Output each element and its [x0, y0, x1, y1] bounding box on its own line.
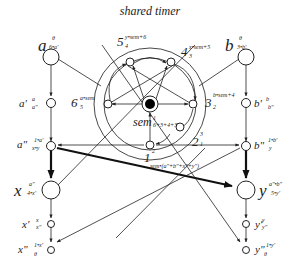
svg-text:4: 4 — [181, 44, 188, 59]
label-t5: 5 y•sem+6 4 — [117, 34, 146, 49]
svg-text:a: a — [32, 96, 35, 102]
svg-text:θ: θ — [239, 35, 242, 41]
svg-text:1•b': 1•b' — [268, 137, 278, 143]
svg-text:4: 4 — [125, 43, 128, 49]
label-a-dprime: a" 1•a' x•y — [17, 137, 44, 151]
svg-text:5•y': 5•y' — [271, 190, 281, 196]
node-t5[interactable] — [126, 58, 134, 66]
diagram-title: shared timer — [120, 4, 181, 18]
svg-text:2: 2 — [192, 134, 199, 149]
edge-diagonal-lower — [116, 148, 205, 238]
edge-a-timer — [58, 59, 101, 86]
svg-text:a': a' — [19, 97, 28, 109]
node-y[interactable] — [237, 181, 255, 199]
svg-text:y: y — [257, 181, 267, 200]
node-a-prime[interactable] — [47, 99, 56, 108]
svg-text:1•y': 1•y' — [266, 242, 276, 248]
node-y-prime[interactable] — [243, 221, 250, 228]
svg-text:sem•(a"+b"+x"+y"): sem•(a"+b"+x"+y") — [150, 163, 199, 170]
node-b-prime[interactable] — [242, 99, 251, 108]
edge-diagonal-y2 — [102, 45, 240, 242]
label-x: x a" 4•x' — [13, 181, 37, 200]
node-x[interactable] — [42, 181, 60, 199]
node-a-dprime[interactable] — [47, 142, 56, 151]
node-b-dprime[interactable] — [242, 142, 251, 151]
label-y: y a"•b" 5•y' — [257, 181, 283, 200]
svg-text:x': x' — [21, 218, 30, 230]
label-x-prime: x' x x" — [21, 217, 42, 230]
label-b-dprime: b" 1•b' y — [254, 137, 278, 151]
node-x-prime[interactable] — [48, 221, 55, 228]
svg-text:b•sem+4: b•sem+4 — [213, 92, 234, 98]
edge-sem-t5 — [133, 66, 144, 99]
svg-text:b": b" — [254, 139, 265, 151]
svg-text:6: 6 — [71, 95, 78, 110]
label-t3: 3 b•sem+4 2 — [204, 92, 234, 110]
arc-t4-t3 — [174, 64, 195, 100]
svg-text:6+3+4+3: 6+3+4+3 — [153, 122, 177, 128]
svg-text:2: 2 — [213, 104, 216, 110]
label-x-dprime: x" 1•x' θ — [17, 242, 44, 257]
svg-text:a": a" — [29, 181, 35, 187]
node-t4[interactable] — [167, 58, 175, 66]
svg-text:2: 2 — [152, 148, 155, 154]
svg-text:y": y" — [261, 224, 268, 230]
node-t3[interactable] — [189, 100, 197, 108]
label-t1: 1 2 sem•(a"+b"+x"+y") — [144, 148, 199, 170]
edge-b-timer — [199, 59, 239, 86]
svg-text:1•a': 1•a' — [34, 137, 44, 143]
node-x-dprime[interactable] — [48, 247, 55, 254]
edge-t4-cross — [110, 66, 172, 103]
edge-t5-cross — [128, 66, 190, 103]
svg-text:x: x — [35, 217, 39, 223]
svg-text:x": x" — [35, 224, 42, 230]
svg-text:θ: θ — [52, 35, 55, 41]
svg-text:1: 1 — [200, 141, 203, 147]
svg-text:b: b — [225, 36, 234, 55]
svg-text:a•sem: a•sem — [80, 95, 95, 101]
node-t2[interactable] — [176, 123, 184, 131]
edge-sem-t4 — [156, 66, 167, 99]
svg-text:θ: θ — [264, 251, 267, 257]
label-a-prime: a' a a" — [19, 96, 38, 110]
label-y-dprime: y" 1•y' θ — [254, 242, 276, 257]
svg-text:θ: θ — [34, 251, 37, 257]
svg-text:a: a — [38, 36, 47, 55]
svg-text:y•sem+6: y•sem+6 — [124, 34, 146, 40]
label-t6: 6 a•sem 5 — [71, 95, 95, 110]
svg-text:3: 3 — [199, 131, 203, 137]
svg-text:3•b': 3•b' — [236, 44, 247, 50]
node-y-dprime[interactable] — [243, 247, 250, 254]
node-b[interactable] — [238, 49, 254, 65]
svg-text:3: 3 — [204, 95, 212, 110]
sem-token — [145, 99, 155, 109]
svg-text:6•a': 6•a' — [49, 44, 59, 50]
svg-text:y: y — [261, 217, 265, 223]
svg-text:a"•b": a"•b" — [269, 181, 283, 187]
svg-text:x": x" — [17, 243, 28, 255]
svg-text:4•x': 4•x' — [27, 190, 37, 196]
svg-text:b": b" — [268, 104, 274, 110]
svg-text:5: 5 — [117, 34, 124, 49]
svg-text:a": a" — [32, 104, 38, 110]
label-b-prime: b' b b" — [254, 96, 274, 110]
svg-text:x•y: x•y — [31, 145, 40, 151]
svg-text:y: y — [268, 145, 272, 151]
label-t4: 4 x•sem+5 3 — [181, 44, 210, 59]
label-y-prime: y' y y" — [254, 217, 268, 230]
label-sem: sem 1 6+3+4+3 — [133, 115, 177, 129]
svg-text:b: b — [266, 96, 269, 102]
svg-text:a": a" — [17, 138, 28, 150]
svg-text:1•x': 1•x' — [34, 242, 44, 248]
svg-text:3: 3 — [188, 53, 192, 59]
label-t2: 2 3 1 — [192, 131, 203, 149]
svg-text:5: 5 — [80, 104, 83, 110]
svg-text:b': b' — [254, 97, 263, 109]
svg-text:1: 1 — [153, 115, 156, 121]
svg-text:x: x — [13, 181, 22, 200]
svg-text:x•sem+5: x•sem+5 — [188, 44, 210, 50]
node-t6[interactable] — [104, 100, 112, 108]
timer-network-diagram: shared timer — [0, 0, 300, 272]
svg-text:sem: sem — [133, 115, 152, 129]
